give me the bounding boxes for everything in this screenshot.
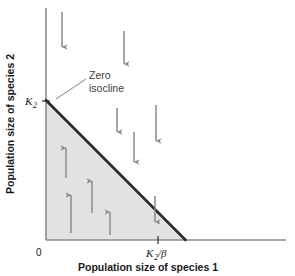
y-axis-tick-label-k: K xyxy=(24,95,33,107)
zero-isocline-figure: Zero isocline K 2 0 K 2 /β Population si… xyxy=(0,0,295,276)
origin-label: 0 xyxy=(36,247,42,258)
plot-canvas: Zero isocline K 2 0 K 2 /β Population si… xyxy=(0,0,295,276)
x-axis-tick-label-suffix: /β xyxy=(157,247,167,259)
annotation-leader-line xyxy=(56,79,86,99)
annotation-line-2: isocline xyxy=(89,82,124,94)
y-axis-title: Population size of species 2 xyxy=(4,54,16,194)
x-axis-title: Population size of species 1 xyxy=(78,261,218,273)
y-axis-tick-label-sub: 2 xyxy=(33,101,37,110)
x-axis-tick-label-k: K xyxy=(145,247,154,259)
annotation-line-1: Zero xyxy=(89,69,111,81)
